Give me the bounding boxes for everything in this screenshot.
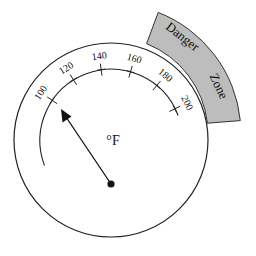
scale-tick-crossbar [50,97,55,104]
scale-label: 160 [126,51,143,66]
scale-label: 180 [156,66,175,84]
needle-arrowhead-icon [61,109,72,123]
needle-pivot [107,180,114,187]
scale-tick-crossbar [70,78,77,82]
scale-tick-crossbar [97,69,105,70]
scale-ticks: 100120140160180200 [32,49,196,112]
scale-arc [40,69,178,165]
scale-label: 100 [32,83,50,102]
scale-label: 200 [179,94,195,112]
unit-label: °F [106,133,120,148]
scale-label: 120 [57,59,76,76]
scale-label: 140 [91,49,107,62]
temperature-gauge-diagram: 100120140160180200 Danger Zone °F [0,0,256,256]
needle-shaft [66,117,111,184]
